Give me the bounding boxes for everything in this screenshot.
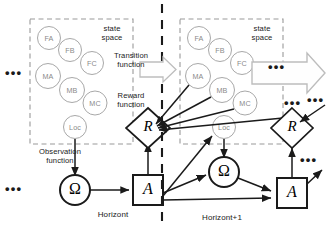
- action-to-action-arrow: [163, 198, 271, 200]
- action-node-letter-left: A: [138, 180, 158, 198]
- observation-node-letter-left: Ω: [65, 180, 85, 198]
- state-node-label-fa-left: FA: [39, 34, 59, 43]
- reward-function-label: Reward function: [103, 92, 159, 109]
- reward-node-letter-right: R: [282, 118, 302, 135]
- action-to-omega-arrow: [163, 175, 206, 193]
- right-edge-ellipsis: •••: [307, 92, 324, 107]
- state-node-label-mb-left: MB: [62, 86, 82, 95]
- state-node-label-fa-right: FA: [189, 34, 209, 43]
- state-node-label-fc-right: FC: [232, 59, 252, 68]
- right-action-ellipsis: •••: [300, 152, 317, 167]
- state-node-label-loc-left: Loc: [65, 123, 85, 132]
- transition-function-label: Transition function: [103, 52, 159, 69]
- omega-to-action-arrow-right: [238, 178, 271, 191]
- state-node-label-mc-left: MC: [85, 99, 105, 108]
- state-node-label-mc-right: MC: [235, 99, 255, 108]
- state-node-label-fc-left: FC: [82, 59, 102, 68]
- state-space-label-right: state space: [242, 25, 282, 42]
- action-node-letter-right: A: [282, 183, 302, 201]
- state-node-label-ma-left: MA: [38, 72, 58, 81]
- action-outgoing-arrow-right: [307, 170, 322, 184]
- continuation-block-arrow: [252, 53, 325, 93]
- state-node-label-loc-right: Loc: [214, 123, 234, 132]
- right-blockarrow-ellipsis: •••: [268, 59, 285, 74]
- observation-function-label: Observation function: [29, 148, 91, 165]
- action-to-loc-arrow: [163, 136, 212, 196]
- horizon-label-left: Horizont: [82, 210, 144, 219]
- state-node-label-fb-right: FB: [210, 46, 230, 55]
- state-node-label-fb-left: FB: [60, 46, 80, 55]
- left-bottom-ellipsis: •••: [5, 181, 22, 196]
- state-node-label-mb-right: MB: [212, 86, 232, 95]
- reward-incoming-arrow-right: [300, 105, 325, 122]
- reward-node-letter-left: R: [138, 118, 158, 135]
- diagram-canvas: state space FA FB FC MA MB MC Loc state …: [0, 0, 329, 232]
- right-reward-ellipsis: •••: [284, 95, 301, 110]
- state-node-label-ma-right: MA: [188, 72, 208, 81]
- left-state-ellipsis: •••: [5, 65, 22, 80]
- observation-node-letter-right: Ω: [214, 162, 234, 180]
- horizon-label-right: Horizont+1: [183, 213, 261, 222]
- state-space-label-left: state space: [92, 25, 132, 42]
